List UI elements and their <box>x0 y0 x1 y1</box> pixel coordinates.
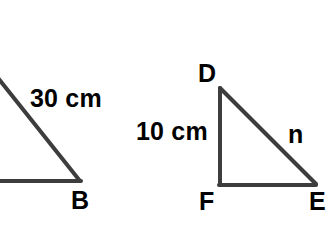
segment-de-variable-label: n <box>288 122 303 147</box>
segment-df-length-label: 10 cm <box>136 119 208 144</box>
vertex-label-e: E <box>309 189 326 214</box>
vertex-label-d: D <box>198 61 216 86</box>
figure-canvas: 30 cm B 10 cm D n F E <box>0 0 329 235</box>
vertex-label-b: B <box>71 188 89 213</box>
vertex-label-f: F <box>199 189 214 214</box>
left-triangle-hypotenuse-length-label: 30 cm <box>30 86 102 111</box>
